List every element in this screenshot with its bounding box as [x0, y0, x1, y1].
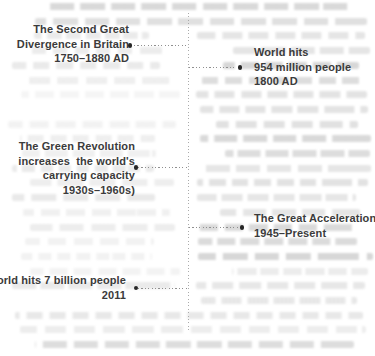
event-text-line: 1750–1880 AD [17, 51, 129, 66]
event-text-line: The Green Revolution [18, 139, 135, 154]
event-world-hits-7-billion: World hits 7 billion people 2011 [0, 273, 126, 302]
event-dot [238, 65, 242, 69]
event-text-line: The Great Acceleration [254, 211, 375, 226]
event-text-line: carrying capacity [18, 168, 135, 183]
timeline-axis-line [188, 13, 189, 331]
event-text-line: World hits 7 billion people [0, 273, 126, 288]
event-text-line: increases the world's [18, 154, 135, 169]
timeline-figure: The Second Great Divergence in Britain 1… [0, 0, 375, 356]
event-text-line: 1945–Present [254, 226, 375, 241]
event-connector [189, 227, 239, 228]
event-text-line: 954 million people [254, 60, 351, 75]
event-text-line: The Second Great [17, 22, 129, 37]
event-connector [134, 45, 188, 46]
event-text-line: 1930s–1960s) [18, 183, 135, 198]
event-second-great-divergence: The Second Great Divergence in Britain 1… [17, 22, 129, 66]
event-text-line: 1800 AD [254, 74, 351, 89]
event-green-revolution: The Green Revolution increases the world… [18, 139, 135, 198]
event-text-line: 2011 [0, 288, 126, 303]
event-connector [138, 288, 188, 289]
event-text-line: Divergence in Britain [17, 37, 129, 52]
event-world-hits-954-million: World hits 954 million people 1800 AD [254, 45, 351, 89]
event-dot [240, 225, 244, 229]
event-connector [189, 67, 237, 68]
event-connector [138, 167, 188, 168]
event-text-line: World hits [254, 45, 351, 60]
event-great-acceleration: The Great Acceleration 1945–Present [254, 211, 375, 240]
